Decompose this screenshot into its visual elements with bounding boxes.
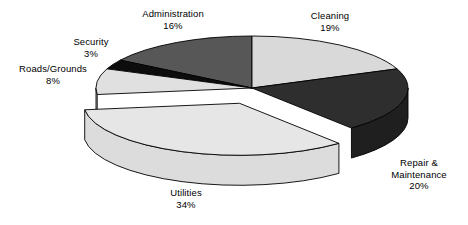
slice-label-roads-grounds: Roads/Grounds 8% [0,63,106,86]
slice-label-cleaning: Cleaning 19% [280,10,380,33]
slice-label-security-value: 3% [46,48,136,60]
slice-label-utilities: Utilities 34% [136,187,236,210]
slice-label-security-name: Security [46,36,136,48]
slice-label-administration-value: 16% [118,20,228,32]
slice-label-security: Security 3% [46,36,136,59]
slice-label-cleaning-value: 19% [280,22,380,34]
slice-label-repair-maintenance-value: 20% [372,180,466,192]
slice-label-repair-maintenance-name2: Maintenance [372,169,466,181]
slice-label-roads-grounds-value: 8% [0,75,106,87]
slice-label-repair-maintenance-name: Repair & [372,157,466,169]
pie-chart-page: Administration 16% Cleaning 19% Security… [0,0,468,225]
slice-label-utilities-name: Utilities [136,187,236,199]
slice-label-repair-maintenance: Repair & Maintenance 20% [372,157,466,192]
slice-label-cleaning-name: Cleaning [280,10,380,22]
slice-label-utilities-value: 34% [136,199,236,211]
slice-label-roads-grounds-name: Roads/Grounds [0,63,106,75]
slice-label-administration: Administration 16% [118,8,228,31]
slice-label-administration-name: Administration [118,8,228,20]
